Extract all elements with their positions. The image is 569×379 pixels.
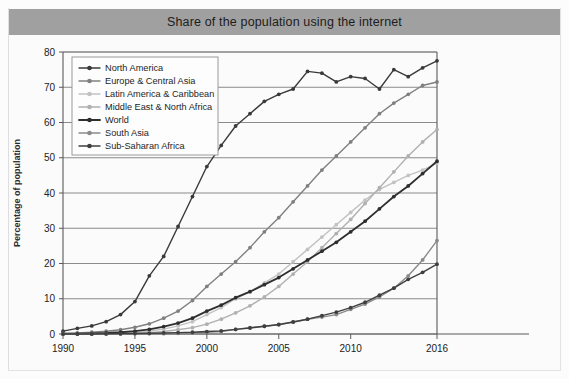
data-point	[133, 332, 137, 336]
data-point	[248, 326, 252, 330]
y-tick-label: 70	[44, 82, 56, 93]
data-point	[435, 128, 439, 132]
data-point	[306, 184, 310, 188]
data-point	[349, 306, 353, 310]
series-line	[63, 241, 437, 334]
page-title: Share of the population using the intern…	[167, 15, 402, 29]
data-point	[291, 260, 295, 264]
series-line	[63, 130, 437, 334]
data-point	[191, 330, 195, 334]
y-axis-title: Percentage of population	[12, 139, 22, 247]
legend-marker	[87, 66, 92, 71]
data-point	[262, 324, 266, 328]
data-point	[75, 326, 79, 330]
data-point	[262, 283, 266, 287]
data-point	[234, 328, 238, 332]
data-point	[90, 324, 94, 328]
data-point	[291, 320, 295, 324]
legend-marker	[87, 79, 92, 84]
chart-page: Share of the population using the intern…	[0, 0, 569, 379]
data-point	[435, 262, 439, 266]
legend-marker	[87, 92, 92, 97]
legend-marker	[87, 105, 92, 110]
data-point	[349, 230, 353, 234]
series-south-asia	[61, 239, 439, 336]
data-point	[104, 320, 108, 324]
chart-legend: North AmericaEurope & Central AsiaLatin …	[72, 57, 218, 155]
chart-title-bar: Share of the population using the intern…	[9, 9, 560, 35]
y-tick-label: 30	[44, 223, 56, 234]
data-point	[320, 71, 324, 75]
data-point	[291, 87, 295, 91]
data-point	[75, 332, 79, 336]
data-point	[378, 87, 382, 91]
data-point	[90, 332, 94, 336]
data-point	[219, 329, 223, 333]
y-tick-label: 50	[44, 152, 56, 163]
data-point	[406, 173, 410, 177]
data-point	[191, 320, 195, 324]
data-point	[147, 274, 151, 278]
data-point	[392, 195, 396, 199]
data-point	[363, 202, 367, 206]
data-point	[378, 293, 382, 297]
data-point	[421, 258, 425, 262]
data-point	[435, 59, 439, 63]
data-point	[191, 195, 195, 199]
data-point	[191, 326, 195, 330]
data-point	[147, 328, 151, 332]
data-point	[392, 181, 396, 185]
data-point	[205, 309, 209, 313]
data-point	[363, 219, 367, 223]
data-point	[133, 325, 137, 329]
data-point	[320, 168, 324, 172]
data-point	[306, 317, 310, 321]
data-point	[349, 75, 353, 79]
legend-label: Sub-Saharan Africa	[105, 141, 186, 151]
data-point	[176, 331, 180, 335]
data-point	[435, 239, 439, 243]
data-point	[363, 77, 367, 81]
data-point	[421, 84, 425, 88]
data-point	[435, 80, 439, 84]
data-point	[349, 140, 353, 144]
data-point	[334, 232, 338, 236]
data-point	[291, 272, 295, 276]
data-point	[334, 154, 338, 158]
data-point	[147, 322, 151, 326]
data-point	[277, 272, 281, 276]
data-point	[320, 314, 324, 318]
data-point	[191, 299, 195, 303]
y-tick-label: 20	[44, 258, 56, 269]
line-chart: 0102030405060708019901995200020052010201…	[0, 35, 569, 379]
data-point	[306, 258, 310, 262]
data-point	[248, 246, 252, 250]
data-point	[435, 159, 439, 163]
legend-marker	[87, 118, 92, 123]
data-point	[119, 332, 123, 336]
data-point	[421, 172, 425, 176]
data-point	[248, 290, 252, 294]
data-point	[421, 66, 425, 70]
data-point	[334, 240, 338, 244]
data-point	[262, 99, 266, 103]
x-tick-label: 2010	[340, 343, 363, 354]
data-point	[162, 316, 166, 320]
data-point	[363, 126, 367, 130]
data-point	[176, 321, 180, 325]
data-point	[349, 210, 353, 214]
data-point	[392, 68, 396, 72]
x-tick-label: 1990	[52, 343, 75, 354]
data-point	[162, 331, 166, 335]
data-point	[191, 316, 195, 320]
y-tick-label: 60	[44, 117, 56, 128]
data-point	[219, 144, 223, 148]
data-point	[334, 80, 338, 84]
data-point	[392, 286, 396, 290]
data-point	[277, 323, 281, 327]
data-point	[176, 309, 180, 313]
data-point	[277, 285, 281, 289]
data-point	[133, 300, 137, 304]
data-point	[262, 230, 266, 234]
legend-label: World	[105, 115, 129, 125]
